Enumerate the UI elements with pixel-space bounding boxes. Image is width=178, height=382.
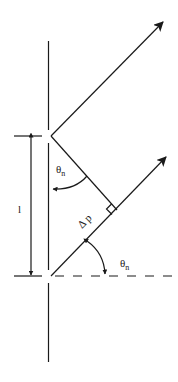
right-angle-marker — [107, 204, 113, 215]
spacing-label: l — [18, 203, 21, 215]
upper-ray-arrow — [51, 22, 163, 136]
lower-angle-arc — [87, 241, 105, 274]
lower-ray-arrow — [51, 157, 166, 276]
path-difference-label: Δ p — [75, 211, 94, 230]
upper-angle-label: θn — [56, 163, 65, 178]
lower-angle-label: θn — [120, 257, 129, 272]
diffraction-diagram: l θn Δ p θn — [0, 0, 178, 382]
upper-angle-arc — [53, 176, 87, 189]
